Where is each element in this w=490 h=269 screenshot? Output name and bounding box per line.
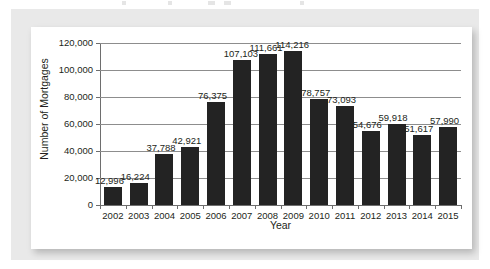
x-axis-tick	[281, 205, 282, 209]
bar	[155, 154, 173, 205]
y-axis-tick-labels: 020,00040,00060,00080,000100,000120,000	[31, 43, 93, 205]
bar	[207, 102, 225, 205]
bar-value-label: 114,216	[275, 40, 309, 50]
bar	[439, 127, 457, 205]
y-axis-tick-label: 40,000	[35, 146, 93, 156]
x-axis-tick	[100, 205, 101, 209]
bar-value-label: 54,676	[353, 120, 382, 130]
y-axis-tick	[96, 43, 100, 44]
y-axis-tick	[96, 124, 100, 125]
gridline	[100, 70, 461, 71]
y-axis-tick	[96, 97, 100, 98]
y-axis-tick	[96, 70, 100, 71]
bar-value-label: 78,757	[301, 88, 330, 98]
x-axis-tick	[461, 205, 462, 209]
x-axis-tick	[203, 205, 204, 209]
x-axis-tick	[358, 205, 359, 209]
bar	[130, 183, 148, 205]
x-axis-tick	[152, 205, 153, 209]
chart-card: Number of Mortgages 020,00040,00060,0008…	[31, 27, 472, 249]
x-axis-tick	[384, 205, 385, 209]
y-axis-tick	[96, 151, 100, 152]
x-axis-tick	[255, 205, 256, 209]
y-axis-tick-label: 100,000	[35, 65, 93, 75]
x-axis-tick	[332, 205, 333, 209]
bar	[259, 54, 277, 205]
bar-value-label: 51,617	[404, 124, 433, 134]
bar-value-label: 73,093	[327, 95, 356, 105]
bar	[388, 124, 406, 205]
gridline	[100, 178, 461, 179]
y-axis-tick-label: 20,000	[35, 173, 93, 183]
bar	[181, 147, 199, 205]
bar-chart: Number of Mortgages 020,00040,00060,0008…	[31, 27, 472, 249]
bar	[233, 60, 251, 205]
bar	[362, 131, 380, 205]
bar	[104, 187, 122, 205]
scan-artifact-strip	[0, 0, 490, 9]
x-axis-title: Year	[100, 219, 461, 231]
bar	[413, 135, 431, 205]
x-axis-tick	[126, 205, 127, 209]
y-axis-tick-label: 80,000	[35, 92, 93, 102]
bar	[284, 51, 302, 205]
bar-value-label: 59,918	[379, 113, 408, 123]
bar	[310, 99, 328, 205]
bar-value-label: 76,375	[198, 91, 227, 101]
y-axis-tick-label: 60,000	[35, 119, 93, 129]
y-axis-tick-label: 0	[35, 200, 93, 210]
bar-value-label: 42,921	[172, 136, 201, 146]
x-axis-tick	[229, 205, 230, 209]
x-axis-tick	[177, 205, 178, 209]
y-axis-tick-label: 120,000	[35, 38, 93, 48]
x-axis-tick	[306, 205, 307, 209]
x-axis-tick	[435, 205, 436, 209]
figure-frame: Number of Mortgages 020,00040,00060,0008…	[11, 9, 479, 260]
plot-area: 12,996200216,224200337,788200442,9212005…	[100, 43, 461, 205]
screenshot-root: Number of Mortgages 020,00040,00060,0008…	[0, 0, 490, 269]
x-axis-tick	[409, 205, 410, 209]
gridline	[100, 97, 461, 98]
bar-value-label: 57,990	[430, 116, 459, 126]
bar-value-label: 37,788	[146, 143, 175, 153]
bar	[336, 106, 354, 205]
bar-value-label: 16,224	[121, 172, 150, 182]
bar-value-label: 12,996	[95, 176, 124, 186]
